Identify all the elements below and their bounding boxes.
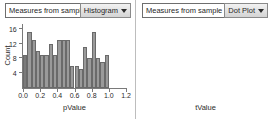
y-axis-title-count: Count [3, 35, 12, 75]
x-tick-label: 1.2 [121, 92, 131, 99]
plot-type-label-dotplot: Dot Plot [228, 4, 255, 17]
plot-type-dropdown-dotplot[interactable]: Dot Plot [224, 3, 268, 18]
x-axis-title-tvalue: tValue [176, 103, 236, 112]
y-tick [19, 57, 22, 58]
plot-type-label-histogram: Histogram [84, 4, 118, 17]
x-tick-label: 0.0 [18, 92, 28, 99]
panel-header-right: Measures from sample Dot Plot [137, 0, 271, 20]
histogram-bars [23, 25, 126, 88]
measures-title-box-left: Measures from sample [5, 3, 89, 18]
y-tick-label: 4 [13, 70, 17, 77]
x-tick-label: 0.4 [52, 92, 62, 99]
y-tick-label: 16 [9, 25, 17, 32]
y-tick [19, 72, 22, 73]
panel-header-left: Measures from sample Histogram [0, 0, 134, 20]
chevron-down-icon [121, 9, 127, 13]
chevron-down-icon [258, 9, 264, 13]
panel-divider [135, 0, 136, 119]
x-axis-title-pvalue: pValue [45, 103, 105, 112]
panel-histogram: Measures from sample Histogram 481216 0.… [0, 0, 134, 119]
x-tick-label: 0.8 [87, 92, 97, 99]
x-tick-label: 0.6 [70, 92, 80, 99]
y-tick-label: 8 [13, 55, 17, 62]
plot-type-dropdown-histogram[interactable]: Histogram [80, 3, 131, 18]
two-plot-workspace: Measures from sample Histogram 481216 0.… [0, 0, 271, 119]
x-tick-label: 0.2 [35, 92, 45, 99]
y-tick [19, 28, 22, 29]
histogram-bar [105, 55, 109, 88]
measures-title-box-right: Measures from sample [142, 3, 226, 18]
y-tick [19, 43, 22, 44]
panel-dotplot: Measures from sample Dot Plot 2.52.62.72… [137, 0, 271, 119]
histogram-plot-area: 481216 0.00.20.40.60.81.01.2 [22, 24, 127, 89]
x-tick-label: 1.0 [104, 92, 114, 99]
